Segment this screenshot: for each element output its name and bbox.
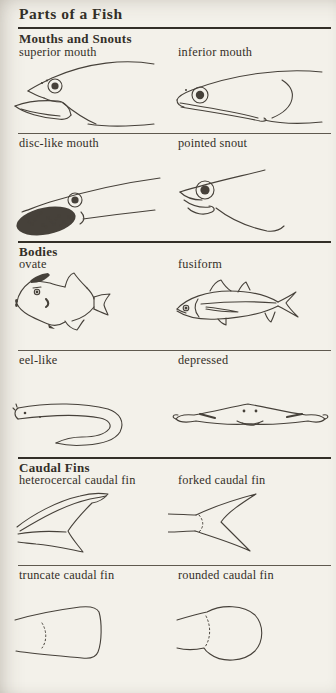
fusiform-body-illustration [172, 277, 332, 343]
figure-label: depressed [178, 353, 228, 368]
figure-label: eel-like [19, 353, 57, 368]
figure-label: disc-like mouth [19, 136, 99, 151]
figure-label: ovate [19, 257, 47, 272]
figure-label: forked caudal fin [178, 473, 265, 488]
field-guide-page: Parts of a Fish Mouths and Snouts superi… [0, 0, 336, 693]
figure-label: heterocercal caudal fin [19, 473, 136, 488]
figure-label: rounded caudal fin [178, 568, 274, 583]
ovate-body-illustration [12, 271, 124, 349]
row-rule [18, 565, 331, 566]
superior-mouth-illustration [8, 56, 158, 131]
row-rule [18, 133, 331, 134]
figure-label: pointed snout [178, 136, 247, 151]
section-rule [18, 457, 331, 459]
depressed-body-illustration [170, 398, 332, 446]
figure-label: truncate caudal fin [19, 568, 114, 583]
heterocercal-caudal-fin-illustration [12, 487, 124, 563]
row-rule [18, 350, 331, 351]
disc-like-mouth-illustration [10, 158, 168, 238]
figure-label: fusiform [178, 257, 222, 272]
rounded-caudal-fin-illustration [170, 594, 282, 669]
page-title: Parts of a Fish [19, 5, 123, 23]
eel-like-body-illustration [10, 392, 165, 452]
inferior-mouth-illustration [170, 60, 328, 132]
pointed-snout-illustration [172, 152, 287, 238]
forked-caudal-fin-illustration [168, 487, 290, 564]
section-rule [18, 27, 331, 29]
truncate-caudal-fin-illustration [12, 594, 120, 669]
section-rule [18, 241, 331, 243]
figure-label: inferior mouth [178, 45, 252, 60]
